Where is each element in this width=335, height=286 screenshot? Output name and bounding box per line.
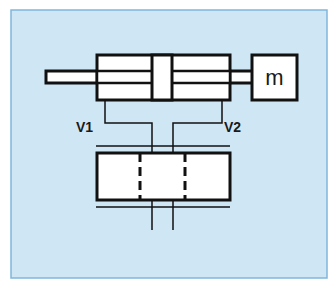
hydraulic-diagram: m V1 V2: [0, 0, 335, 286]
mass-label: m: [265, 65, 283, 90]
port-label-v2: V2: [224, 119, 241, 135]
cylinder: [97, 55, 230, 100]
port-label-v1: V1: [76, 119, 93, 135]
piston: [152, 55, 172, 100]
mass-block: m: [252, 55, 297, 100]
valve: [97, 153, 230, 200]
diagram-frame: [11, 10, 327, 278]
